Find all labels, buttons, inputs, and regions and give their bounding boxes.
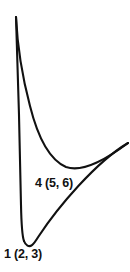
point-label-upper-minimum: 4 (5, 6) xyxy=(35,177,73,190)
curve-figure: 1 (2, 3) 4 (5, 6) xyxy=(0,0,130,272)
curve-upper-branch xyxy=(16,17,128,168)
point-label-lower-cusp: 1 (2, 3) xyxy=(4,248,42,261)
curve-plot-area xyxy=(0,0,130,272)
curve-lower-cusp-and-rising-branch xyxy=(24,143,128,246)
